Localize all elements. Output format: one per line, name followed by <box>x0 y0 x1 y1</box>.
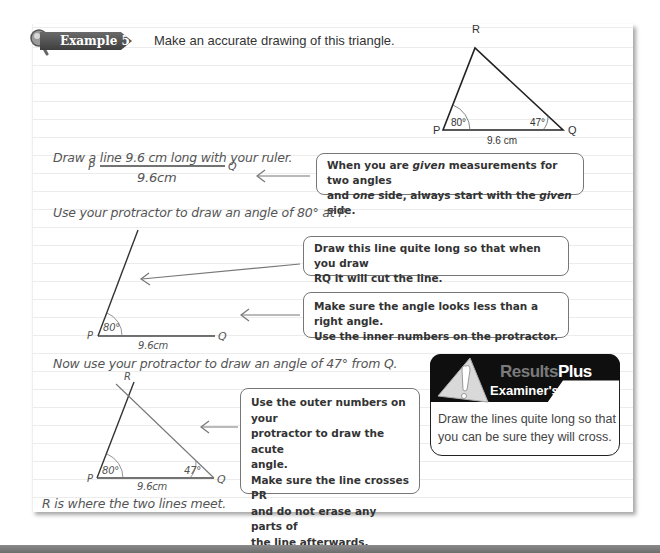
step-3-label-q: Q <box>217 473 225 486</box>
step-3-arrow <box>200 420 240 434</box>
callout-outer-numbers: Use the outer numbers on your protractor… <box>240 388 420 494</box>
step-3-length: 9.6cm <box>137 481 167 492</box>
step-2-diagram <box>60 220 320 350</box>
examiner-tip-text: Draw the lines quite long so that you ca… <box>438 410 616 446</box>
step-1-label-p: P <box>88 160 94 173</box>
step-2-label-q: Q <box>218 330 226 343</box>
example-label: Example 5 <box>40 32 132 50</box>
step-3-text: Now use your protractor to draw an angle… <box>53 356 397 371</box>
results-plus-logo: ResultsPlus <box>500 362 592 382</box>
step-2-length: 9.6cm <box>138 340 168 351</box>
callout-start-with-side: When you are given measurements for two … <box>316 153 584 195</box>
warning-exclamation-icon <box>436 356 490 408</box>
examiner-tip-title: Examiner's Tip <box>490 383 582 398</box>
step-1-length: 9.6cm <box>137 170 177 185</box>
ref-angle-q: 47° <box>530 117 545 128</box>
callout-less-than-right: Make sure the angle looks less than a ri… <box>303 292 569 338</box>
examiner-tip-box: ResultsPlus Examiner's Tip Draw the line… <box>430 354 620 456</box>
callout-draw-long: Draw this line quite long so that when y… <box>303 236 569 276</box>
step-3-label-p: P <box>87 473 93 484</box>
ref-angle-p: 80° <box>451 117 466 128</box>
ref-label-q: Q <box>568 124 577 136</box>
step-2-angle: 80° <box>103 322 120 333</box>
example-instruction: Make an accurate drawing of this triangl… <box>154 33 395 48</box>
step-3-angle-q: 47° <box>184 465 201 476</box>
example-badge: Example 5 <box>28 30 140 52</box>
step-3-angle-p: 80° <box>102 465 119 476</box>
step-2-label-p: P <box>87 330 93 341</box>
ref-label-p: P <box>433 124 440 136</box>
ref-label-r: R <box>472 23 480 35</box>
step-1-diagram <box>60 160 320 200</box>
step-1-label-q: Q <box>228 160 236 173</box>
ref-side-pq: 9.6 cm <box>487 135 517 146</box>
conclusion-text: R is where the two lines meet. <box>42 496 226 511</box>
page-bottom-bar <box>0 545 660 553</box>
step-3-label-r: R <box>124 371 131 382</box>
step-2-text: Use your protractor to draw an angle of … <box>53 205 348 220</box>
